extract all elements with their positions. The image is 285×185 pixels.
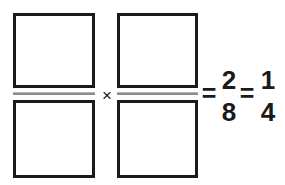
- first-fraction-bar: [13, 93, 95, 95]
- worksheet-canvas: × = 2 8 = 1 4: [0, 0, 285, 185]
- multiplication-operator: ×: [99, 87, 115, 104]
- result-fraction-product: 2 8: [217, 68, 241, 123]
- first-fraction-numerator-box[interactable]: [13, 13, 95, 88]
- product-numerator: 2: [222, 67, 236, 94]
- second-fraction-bar: [117, 93, 198, 95]
- second-fraction-numerator-box[interactable]: [117, 13, 198, 88]
- simplified-denominator: 4: [261, 98, 275, 125]
- equals-operator-second: =: [239, 81, 255, 106]
- simplified-numerator: 1: [261, 67, 275, 94]
- result-fraction-simplified: 1 4: [256, 68, 280, 123]
- second-fraction-denominator-box[interactable]: [117, 100, 198, 178]
- product-denominator: 8: [222, 98, 236, 125]
- first-fraction-denominator-box[interactable]: [13, 100, 95, 178]
- equals-operator-first: =: [201, 81, 217, 106]
